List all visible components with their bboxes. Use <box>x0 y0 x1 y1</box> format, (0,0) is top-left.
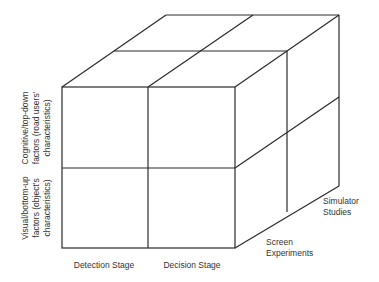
y-label-line: factors (road users' <box>31 91 41 164</box>
y-label-line: characteristics) <box>42 179 52 236</box>
z-label-line: Studies <box>323 207 351 217</box>
top-face <box>62 15 339 87</box>
y-label-line: characteristics) <box>42 99 52 156</box>
y-label-line: Cognitive/top-down <box>20 91 30 164</box>
front-face <box>62 87 235 248</box>
z-label-line: Simulator <box>323 196 359 206</box>
cube-diagram: Cognitive/top-down factors (road users' … <box>0 0 379 282</box>
z-axis-label-screen: Screen Experiments <box>266 237 313 258</box>
z-label-line: Experiments <box>266 248 313 258</box>
x-axis-label-decision: Decision Stage <box>163 260 220 270</box>
y-label-line: factors (object's <box>31 178 41 237</box>
y-axis-label-visual: Visual/bottom-up factors (object's chara… <box>20 176 52 240</box>
z-label-line: Screen <box>266 237 293 247</box>
z-axis-label-simulator: Simulator Studies <box>323 196 359 217</box>
y-label-line: Visual/bottom-up <box>20 176 30 240</box>
y-axis-label-cognitive: Cognitive/top-down factors (road users' … <box>20 91 52 164</box>
x-axis-label-detection: Detection Stage <box>74 260 135 270</box>
